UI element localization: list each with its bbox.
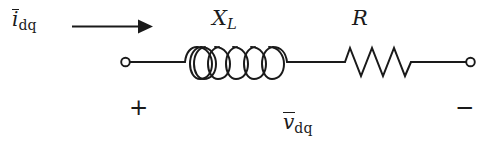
inductor-coil-icon xyxy=(185,47,287,79)
resistor-zigzag-icon xyxy=(345,48,411,76)
inductor-label: XL xyxy=(212,8,237,32)
right-terminal-icon xyxy=(466,58,475,67)
resistor-label: R xyxy=(352,8,368,29)
voltage-label: vdq xyxy=(283,112,313,135)
resistor-symbol: R xyxy=(352,6,368,30)
voltage-symbol: v xyxy=(283,112,294,132)
left-terminal-icon xyxy=(121,58,130,67)
circuit-diagram-figure: idq XL R + − vdq xyxy=(0,0,501,149)
polarity-minus-label: − xyxy=(455,96,474,119)
current-symbol: i xyxy=(12,9,18,29)
polarity-plus-label: + xyxy=(129,96,148,119)
current-arrow xyxy=(72,20,153,34)
voltage-subscript: dq xyxy=(294,120,312,136)
current-label: idq xyxy=(12,9,37,32)
current-subscript: dq xyxy=(18,17,36,33)
inductor-subscript: L xyxy=(227,15,237,32)
circuit-schematic-canvas xyxy=(0,0,501,149)
inductor-symbol: X xyxy=(212,6,227,30)
